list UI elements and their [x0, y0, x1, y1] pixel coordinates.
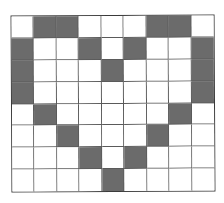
- grid-cell-empty: [124, 103, 147, 125]
- grid-cell-empty: [12, 126, 35, 148]
- grid-cell-empty: [57, 82, 80, 104]
- grid-cell-empty: [57, 38, 80, 60]
- grid-cell-filled: [102, 169, 125, 191]
- grid-cell-empty: [57, 147, 80, 169]
- grid-cell-filled: [56, 16, 79, 38]
- grid-cell-empty: [124, 81, 147, 103]
- grid-cell-empty: [147, 81, 170, 103]
- grid-cell-empty: [34, 82, 57, 104]
- grid-cell-empty: [102, 103, 125, 125]
- grid-cell-empty: [79, 82, 102, 104]
- grid-cell-empty: [146, 38, 169, 60]
- grid-cell-empty: [102, 125, 125, 147]
- grid-cell-filled: [57, 126, 80, 148]
- grid-cell-empty: [102, 147, 125, 169]
- grid-cell-empty: [169, 147, 192, 169]
- grid-cell-empty: [35, 126, 58, 148]
- grid-cell-empty: [34, 60, 57, 82]
- grid-cell-filled: [34, 16, 57, 38]
- grid-cell-empty: [34, 38, 57, 60]
- grid-cell-filled: [169, 16, 192, 38]
- grid-cell-empty: [124, 16, 147, 38]
- grid-cell-empty: [80, 169, 103, 191]
- grid-cell-empty: [57, 169, 80, 191]
- grid-cell-empty: [35, 169, 58, 191]
- grid-cell-empty: [191, 15, 214, 37]
- grid-cell-empty: [101, 38, 124, 60]
- grid-cell-filled: [169, 103, 192, 125]
- grid-cell-empty: [169, 125, 192, 147]
- grid-cell-filled: [12, 38, 35, 60]
- grid-cell-empty: [147, 169, 170, 191]
- grid-cell-filled: [147, 125, 170, 147]
- grid-cell-empty: [192, 169, 215, 191]
- grid-cell-empty: [146, 59, 169, 81]
- grid-cell-empty: [79, 60, 102, 82]
- grid-cell-filled: [79, 38, 102, 60]
- grid-cell-filled: [124, 38, 147, 60]
- grid-cell-empty: [57, 104, 80, 126]
- grid-cell-empty: [12, 170, 35, 192]
- grid-cell-empty: [192, 147, 215, 169]
- grid-cell-empty: [147, 103, 170, 125]
- grid-cell-empty: [79, 16, 102, 38]
- grid-cell-empty: [12, 148, 35, 170]
- pixel-grid: [11, 14, 216, 192]
- grid-cell-empty: [35, 148, 58, 170]
- grid-cell-filled: [191, 37, 214, 59]
- grid-cell-filled: [12, 60, 35, 82]
- grid-cell-empty: [12, 16, 35, 38]
- grid-cell-empty: [125, 169, 148, 191]
- grid-cell-filled: [191, 81, 214, 103]
- grid-cell-empty: [169, 59, 192, 81]
- grid-cell-empty: [124, 60, 147, 82]
- grid-cell-empty: [147, 147, 170, 169]
- grid-cell-empty: [12, 104, 35, 126]
- grid-cell-empty: [79, 125, 102, 147]
- grid-cell-empty: [79, 104, 102, 126]
- grid-cell-empty: [192, 103, 215, 125]
- grid-cell-empty: [192, 125, 215, 147]
- grid-cell-empty: [169, 81, 192, 103]
- grid-cell-empty: [101, 16, 124, 38]
- grid-cell-filled: [12, 82, 35, 104]
- grid-cell-filled: [80, 147, 103, 169]
- grid-cell-empty: [169, 169, 192, 191]
- grid-cell-filled: [191, 59, 214, 81]
- grid-cell-empty: [169, 37, 192, 59]
- grid-cell-filled: [34, 104, 57, 126]
- grid-cell-empty: [102, 82, 125, 104]
- grid-cell-filled: [102, 60, 125, 82]
- grid-cell-empty: [57, 60, 80, 82]
- grid-cell-empty: [124, 125, 147, 147]
- grid-cell-filled: [146, 16, 169, 38]
- grid-cell-filled: [124, 147, 147, 169]
